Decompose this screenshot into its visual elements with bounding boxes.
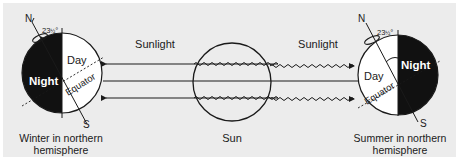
sun-label: Sun <box>222 132 242 144</box>
south-label-right: S <box>420 118 427 129</box>
sun <box>193 43 271 121</box>
day-label-left: Day <box>67 54 87 66</box>
sunlight-label-left: Sunlight <box>135 38 175 50</box>
north-label-left: N <box>25 13 32 24</box>
caption-right-line1: Summer in northern <box>354 132 447 144</box>
tilt-label-left: 23½° <box>42 26 58 35</box>
tilt-label-right: 23½° <box>377 28 393 37</box>
day-label-right: Day <box>364 70 384 82</box>
seasons-diagram: Sun Sunlight Sunlight N 23½° Night Day E… <box>0 0 468 167</box>
night-label-right: Night <box>401 59 431 71</box>
south-label-left: S <box>83 119 90 130</box>
caption-right-line2: hemisphere <box>373 144 428 156</box>
sunlight-label-right: Sunlight <box>298 38 338 50</box>
sunlight-rays-right <box>270 65 354 101</box>
caption-left-line1: Winter in northern <box>19 132 103 144</box>
caption-left-line2: hemisphere <box>34 144 89 156</box>
night-label-left: Night <box>29 75 59 87</box>
north-label-right: N <box>358 13 365 24</box>
